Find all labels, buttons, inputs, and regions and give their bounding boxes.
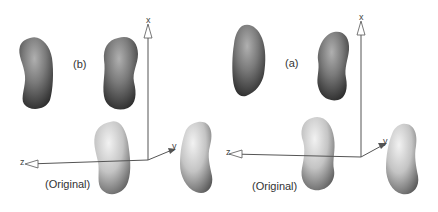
- z-axis-line: [232, 154, 361, 157]
- z-axis-label-a: z: [226, 148, 231, 157]
- original-label-b: (Original): [45, 178, 90, 190]
- kidney-shape-b-top-right: [103, 37, 138, 110]
- original-label-a: (Original): [252, 180, 297, 192]
- z-axis-arrow-icon: [25, 160, 38, 168]
- z-axis-label-b: z: [20, 158, 25, 167]
- x-axis-arrow-icon: [144, 24, 152, 38]
- y-axis-label-b: y: [172, 142, 177, 151]
- kidney-shape-b-original: [94, 121, 130, 194]
- figure: (b) (a) (Original) (Original) x z y x z …: [0, 0, 438, 212]
- panel-b: [19, 24, 212, 194]
- kidney-shape-a-top-left: [232, 25, 265, 97]
- x-axis-arrow-icon: [357, 21, 365, 35]
- kidney-shape-a-original: [301, 117, 334, 190]
- x-axis-label-b: x: [146, 16, 151, 25]
- kidney-shape-a-side: [386, 124, 418, 195]
- y-axis-label-a: y: [383, 137, 388, 146]
- x-axis-label-a: x: [359, 13, 364, 22]
- y-axis-line: [148, 150, 172, 160]
- kidney-shape-a-top-right: [317, 32, 349, 101]
- panel-a: [229, 21, 418, 194]
- panel-label-a: (a): [285, 57, 298, 69]
- panel-label-b: (b): [73, 58, 86, 70]
- kidney-shape-b-top-left: [19, 37, 53, 109]
- kidney-shape-b-side: [180, 122, 212, 193]
- y-axis-line: [361, 145, 383, 157]
